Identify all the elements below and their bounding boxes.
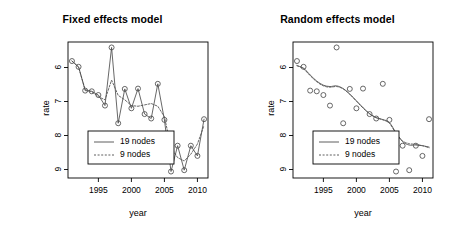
x-tick-label: 1995: [309, 185, 337, 195]
x-axis-label: year: [293, 208, 433, 218]
data-point: [308, 88, 313, 93]
data-point: [334, 45, 339, 50]
y-axis-label: rate: [41, 82, 51, 134]
data-point: [420, 153, 425, 158]
y-tick-label: 6: [53, 61, 63, 73]
data-point: [400, 143, 405, 148]
legend-label: 9 nodes: [120, 149, 150, 159]
chart-figure: Fixed effects model rate year 9876199520…: [0, 0, 450, 240]
y-tick-label: 7: [53, 95, 63, 107]
data-point: [341, 121, 346, 126]
legend-label: 19 nodes: [345, 136, 380, 146]
x-axis-label: year: [68, 208, 208, 218]
y-tick-label: 9: [53, 163, 63, 175]
data-point: [354, 106, 359, 111]
x-tick-label: 1995: [84, 185, 112, 195]
y-axis-label: rate: [266, 82, 276, 134]
legend-label: 19 nodes: [120, 136, 155, 146]
data-point: [380, 81, 385, 86]
y-tick-label: 8: [53, 129, 63, 141]
x-tick-label: 2000: [342, 185, 370, 195]
x-tick-label: 2010: [183, 185, 211, 195]
plot-area-random-effects: [225, 0, 450, 240]
y-tick-label: 7: [278, 95, 288, 107]
data-point: [347, 86, 352, 91]
data-point: [327, 103, 332, 108]
x-tick-label: 2005: [375, 185, 403, 195]
data-point: [294, 59, 299, 64]
data-point: [314, 89, 319, 94]
y-tick-label: 6: [278, 61, 288, 73]
data-point: [321, 93, 326, 98]
y-tick-label: 9: [278, 163, 288, 175]
data-point: [394, 169, 399, 174]
data-point: [361, 86, 366, 91]
x-tick-label: 2000: [117, 185, 145, 195]
panel-fixed-effects: Fixed effects model rate year 9876199520…: [0, 0, 225, 240]
x-tick-label: 2005: [150, 185, 178, 195]
plot-area-fixed-effects: [0, 0, 225, 240]
data-point: [407, 168, 412, 173]
legend-label: 9 nodes: [345, 149, 375, 159]
x-tick-label: 2010: [408, 185, 436, 195]
y-tick-label: 8: [278, 129, 288, 141]
panel-random-effects: Random effects model rate year 987619952…: [225, 0, 450, 240]
data-point: [427, 117, 432, 122]
